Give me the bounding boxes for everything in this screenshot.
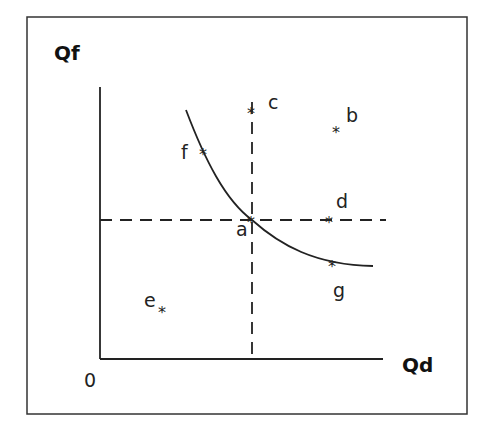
- x-axis-label: Qd: [402, 353, 433, 377]
- point-a-marker: *: [247, 213, 255, 232]
- point-f-marker: *: [199, 145, 207, 164]
- point-c-marker: *: [247, 104, 255, 123]
- point-b-marker: *: [332, 123, 340, 142]
- point-c-label: c: [268, 91, 278, 113]
- y-axis-label: Qf: [54, 41, 80, 65]
- indifference-curve: [186, 110, 373, 266]
- origin-label: 0: [84, 369, 96, 391]
- point-g-marker: *: [328, 257, 336, 276]
- point-e-marker: *: [158, 303, 166, 322]
- point-g-label: g: [333, 279, 345, 301]
- point-f-label: f: [181, 141, 189, 163]
- point-a-label: a: [236, 218, 248, 240]
- point-e-label: e: [144, 289, 156, 311]
- point-d-marker: *: [325, 213, 333, 232]
- point-d-label: d: [336, 190, 348, 212]
- point-b-label: b: [346, 104, 358, 126]
- indifference-diagram: Qf Qd 0 * * * * * * * a b c d e f g: [0, 0, 489, 434]
